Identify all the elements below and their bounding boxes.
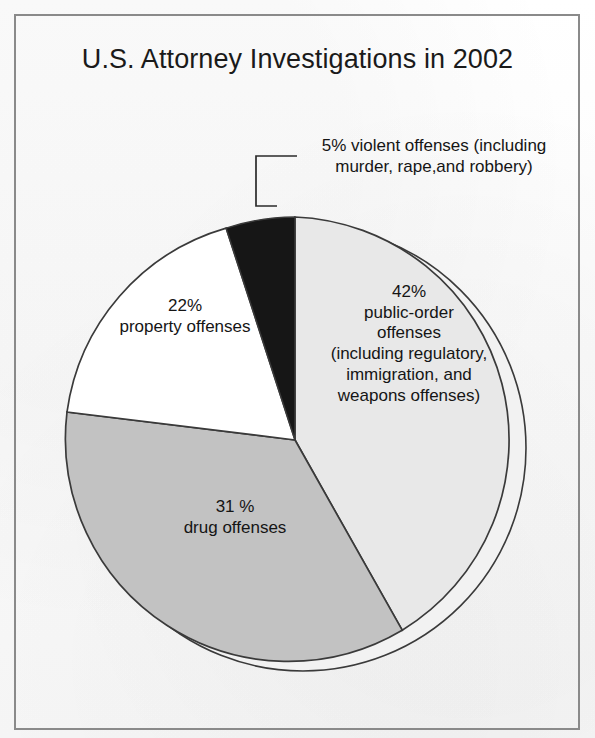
violent-offenses-leader-line (256, 156, 297, 206)
slice-label-public-order-offenses: 42% public-order offenses (including reg… (318, 282, 500, 406)
slice-label-drug-offenses: 31 % drug offenses (140, 497, 330, 538)
pie-chart-svg (0, 0, 595, 738)
pie-chart-figure: U.S. Attorney Investigations in 2002 5% … (0, 0, 595, 738)
slice-label-property-offenses: 22% property offenses (96, 296, 274, 337)
slice-label-violent-offenses: 5% violent offenses (including murder, r… (300, 136, 568, 177)
